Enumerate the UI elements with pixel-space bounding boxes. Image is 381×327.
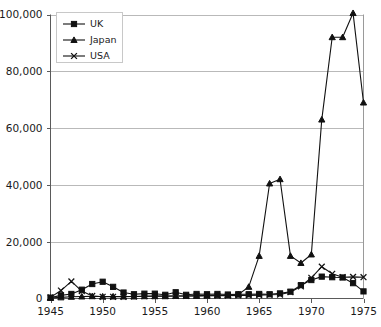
- marker-square: [100, 279, 105, 284]
- x-tick-label: 1975: [350, 305, 377, 317]
- legend-label: USA: [90, 50, 110, 61]
- marker-square: [71, 21, 76, 26]
- chart-legend[interactable]: UKJapanUSA: [57, 13, 123, 63]
- legend-label: Japan: [89, 34, 117, 45]
- y-axis-tick-labels: 020,00040,00060,00080,000100,000: [0, 8, 43, 304]
- marker-square: [361, 289, 366, 294]
- x-tick-label: 1970: [298, 305, 325, 317]
- chart-plot-area: 020,00040,00060,00080,000100,000 1945195…: [0, 0, 381, 327]
- marker-square: [350, 281, 355, 286]
- y-tick-label: 60,000: [6, 122, 43, 134]
- marker-triangle: [287, 253, 293, 259]
- marker-triangle: [256, 253, 262, 259]
- x-tick-label: 1945: [37, 305, 64, 317]
- x-axis-tick-labels: 1945195019551960196519701975: [37, 305, 377, 317]
- x-tick-label: 1955: [141, 305, 168, 317]
- marker-square: [90, 281, 95, 286]
- marker-triangle: [246, 284, 252, 290]
- line-chart: 020,00040,00060,00080,000100,000 1945195…: [0, 0, 381, 327]
- y-tick-label: 0: [36, 292, 43, 304]
- marker-square: [319, 274, 324, 279]
- marker-square: [111, 284, 116, 289]
- series-usa: [48, 264, 367, 300]
- marker-cross: [68, 279, 74, 285]
- legend-label: UK: [90, 18, 104, 29]
- marker-triangle: [319, 116, 325, 122]
- marker-triangle: [308, 251, 314, 257]
- marker-cross: [319, 264, 325, 270]
- y-tick-label: 40,000: [6, 179, 43, 191]
- x-tick-label: 1965: [246, 305, 273, 317]
- marker-triangle: [360, 99, 366, 105]
- marker-triangle: [350, 10, 356, 16]
- y-tick-label: 100,000: [0, 8, 43, 20]
- x-tick-label: 1950: [89, 305, 116, 317]
- y-tick-label: 80,000: [6, 65, 43, 77]
- marker-triangle: [277, 176, 283, 182]
- x-tick-label: 1960: [194, 305, 221, 317]
- y-tick-label: 20,000: [6, 236, 43, 248]
